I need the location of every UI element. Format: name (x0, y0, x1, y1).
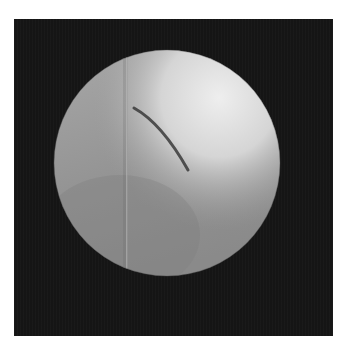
fluoroscopy-image (0, 0, 348, 349)
field-of-view (40, 45, 285, 295)
